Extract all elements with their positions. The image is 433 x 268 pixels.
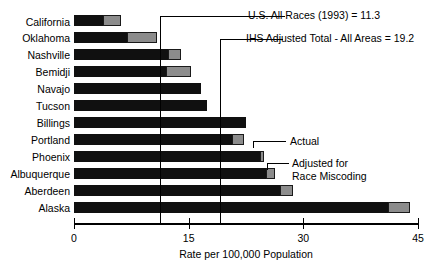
bar-row xyxy=(74,83,418,94)
bar-segment-adjusted xyxy=(280,185,293,196)
bar-segment-actual xyxy=(74,202,388,213)
bar-row xyxy=(74,49,418,60)
bar-segment-actual xyxy=(74,15,103,26)
bar-segment-actual xyxy=(74,100,207,111)
bar-row xyxy=(74,185,418,196)
category-label-california: California xyxy=(26,17,70,28)
bar-segment-adjusted xyxy=(103,15,121,26)
chart-container: California Oklahoma Nashville Bemidji Na… xyxy=(0,0,433,268)
category-label-aberdeen: Aberdeen xyxy=(24,186,70,197)
bar-segment-actual xyxy=(74,49,168,60)
bar-segment-adjusted xyxy=(260,151,265,162)
leader-horizontal-adjusted xyxy=(267,163,289,164)
bar-row xyxy=(74,134,418,145)
category-label-navajo: Navajo xyxy=(37,84,70,95)
x-axis-title: Rate per 100,000 Population xyxy=(179,248,313,260)
x-axis-tick-label: 30 xyxy=(297,232,309,244)
category-label-bemidji: Bemidji xyxy=(36,67,70,78)
x-axis-tick xyxy=(74,218,75,229)
category-label-albuquerque: Albuquerque xyxy=(10,169,70,180)
category-label-nashville: Nashville xyxy=(27,50,70,61)
legend-label-adjusted: Adjusted for Race Miscoding xyxy=(292,157,367,182)
annotation-ihs-adjusted: IHS Adjusted Total - All Areas = 19.2 xyxy=(246,32,414,45)
bar-segment-actual xyxy=(74,83,201,94)
annotation-us-all-races: U.S. All Races (1993) = 11.3 xyxy=(248,9,380,22)
bar-segment-adjusted xyxy=(127,32,158,43)
category-label-billings: Billings xyxy=(37,118,70,129)
bar-segment-adjusted xyxy=(388,202,410,213)
bar-row xyxy=(74,117,418,128)
bar-segment-adjusted xyxy=(168,49,181,60)
bar-row xyxy=(74,202,418,213)
bar-segment-actual xyxy=(74,168,266,179)
bar-segment-actual xyxy=(74,134,232,145)
category-label-tucson: Tucson xyxy=(36,101,70,112)
leader-horizontal-actual xyxy=(253,141,286,142)
bar-segment-actual xyxy=(74,32,127,43)
bar-segment-actual xyxy=(74,66,166,77)
bar-row xyxy=(74,66,418,77)
category-label-oklahoma: Oklahoma xyxy=(22,33,70,44)
x-axis-tick xyxy=(189,218,190,229)
bar-segment-actual xyxy=(74,151,260,162)
reference-line-ihs-adjusted xyxy=(220,39,221,223)
bar-segment-adjusted xyxy=(166,66,191,77)
category-label-alaska: Alaska xyxy=(38,203,70,214)
bar-segment-adjusted xyxy=(232,134,243,145)
x-axis-tick-label: 45 xyxy=(412,232,424,244)
bar-row xyxy=(74,100,418,111)
reference-line-us-all-races xyxy=(160,16,161,223)
x-axis-tick-label: 0 xyxy=(71,232,77,244)
x-axis-tick xyxy=(418,218,419,229)
category-label-phoenix: Phoenix xyxy=(32,152,70,163)
category-label-portland: Portland xyxy=(31,135,70,146)
bar-segment-actual xyxy=(74,185,280,196)
x-axis-tick xyxy=(303,218,304,229)
x-axis-tick-label: 15 xyxy=(183,232,195,244)
x-axis-line xyxy=(74,223,419,225)
legend-label-actual: Actual xyxy=(290,135,319,148)
